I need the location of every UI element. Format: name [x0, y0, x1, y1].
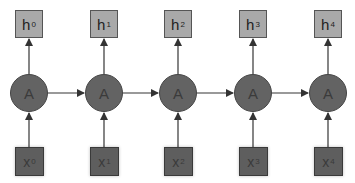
output-subscript: 3 — [255, 20, 259, 29]
cell-label: A — [248, 85, 258, 102]
input-label: x — [23, 154, 30, 170]
input-subscript: 2 — [180, 157, 184, 166]
output-subscript: 0 — [31, 20, 35, 29]
rnn-cell-0: A — [10, 74, 48, 112]
rnn-cell-4: A — [309, 74, 347, 112]
output-subscript: 1 — [106, 20, 110, 29]
output-subscript: 4 — [330, 20, 334, 29]
output-box-h1: h1 — [90, 10, 118, 38]
input-subscript: 0 — [31, 157, 35, 166]
cell-label: A — [24, 85, 34, 102]
input-label: x — [172, 154, 179, 170]
rnn-unrolled-diagram: h0 h1 h2 h3 h4 A A A A A x0 x1 x2 x3 x4 — [0, 0, 355, 183]
input-box-x0: x0 — [15, 147, 44, 176]
input-subscript: 3 — [255, 157, 259, 166]
cell-label: A — [323, 85, 333, 102]
output-label: h — [171, 16, 179, 33]
input-label: x — [247, 154, 254, 170]
input-subscript: 1 — [106, 157, 110, 166]
cell-label: A — [173, 85, 183, 102]
input-box-x4: x4 — [314, 147, 343, 176]
output-label: h — [321, 16, 329, 33]
input-box-x3: x3 — [239, 147, 268, 176]
input-box-x1: x1 — [90, 147, 119, 176]
output-box-h2: h2 — [164, 10, 192, 38]
rnn-cell-1: A — [85, 74, 123, 112]
output-label: h — [97, 16, 105, 33]
rnn-cell-3: A — [234, 74, 272, 112]
output-box-h0: h0 — [15, 10, 43, 38]
output-box-h3: h3 — [239, 10, 267, 38]
output-label: h — [246, 16, 254, 33]
output-subscript: 2 — [180, 20, 184, 29]
cell-label: A — [99, 85, 109, 102]
input-label: x — [322, 154, 329, 170]
output-label: h — [22, 16, 30, 33]
rnn-cell-2: A — [159, 74, 197, 112]
input-subscript: 4 — [330, 157, 334, 166]
input-label: x — [98, 154, 105, 170]
input-box-x2: x2 — [164, 147, 193, 176]
output-box-h4: h4 — [314, 10, 342, 38]
